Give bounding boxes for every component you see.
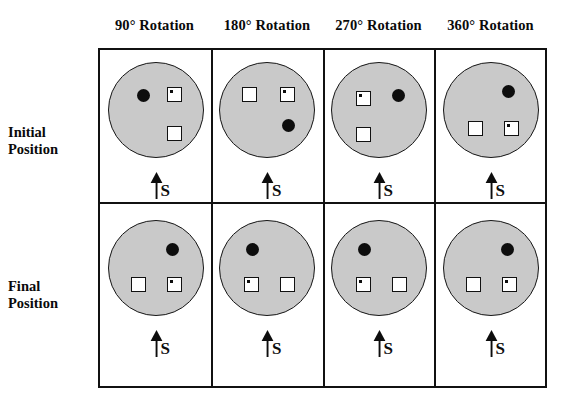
empty-square-object — [356, 127, 371, 142]
cell-initial-rot90: S — [100, 50, 211, 202]
square-with-dot-object — [167, 277, 182, 292]
black-dot-object — [502, 85, 515, 98]
black-dot-object — [137, 89, 150, 102]
black-dot-object — [358, 243, 371, 256]
marker-letter-s: S — [496, 340, 505, 357]
black-dot-object — [166, 243, 179, 256]
orientation-marker: S — [261, 330, 291, 360]
marker-letter-s: S — [272, 182, 281, 199]
cell-initial-rot360: S — [434, 50, 547, 202]
arena-disc — [443, 62, 539, 158]
arena-disc — [108, 220, 204, 316]
column-header-rot180: 180° Rotation — [211, 14, 323, 36]
orientation-marker: S — [485, 172, 515, 202]
row-label-final-line2: Position — [8, 295, 94, 312]
cell-final-rot270: S — [323, 202, 434, 388]
arena-disc — [331, 220, 427, 316]
black-dot-object — [392, 89, 405, 102]
row-label-final-line1: Final — [8, 278, 94, 295]
cell-final-rot180: S — [211, 202, 323, 388]
row-label-final-position: Final Position — [8, 278, 94, 312]
marker-letter-s: S — [384, 340, 393, 357]
rotation-figure: 90° Rotation 180° Rotation 270° Rotation… — [0, 0, 576, 401]
empty-square-object — [242, 87, 257, 102]
orientation-marker: S — [373, 330, 403, 360]
row-label-initial-line2: Position — [8, 141, 94, 158]
empty-square-object — [167, 126, 182, 141]
row-label-initial-position: Initial Position — [8, 124, 94, 158]
marker-letter-s: S — [384, 182, 393, 199]
square-with-dot-object — [244, 277, 259, 292]
black-dot-object — [246, 243, 259, 256]
column-header-rot360: 360° Rotation — [434, 14, 547, 36]
orientation-marker: S — [261, 172, 291, 202]
marker-letter-s: S — [272, 340, 281, 357]
marker-letter-s: S — [161, 182, 170, 199]
orientation-marker: S — [373, 172, 403, 202]
orientation-marker: S — [150, 330, 180, 360]
figure-grid: SSSSSSSS — [98, 48, 547, 388]
arena-disc — [443, 220, 539, 316]
empty-square-object — [131, 277, 146, 292]
cell-final-rot360: S — [434, 202, 547, 388]
square-with-dot-object — [356, 277, 371, 292]
orientation-marker: S — [150, 172, 180, 202]
empty-square-object — [466, 277, 481, 292]
square-with-dot-object — [356, 91, 371, 106]
empty-square-object — [468, 121, 483, 136]
empty-square-object — [280, 277, 295, 292]
arena-disc — [331, 62, 427, 158]
cell-initial-rot180: S — [211, 50, 323, 202]
square-with-dot-object — [504, 121, 519, 136]
square-with-dot-object — [502, 277, 517, 292]
empty-square-object — [392, 277, 407, 292]
black-dot-object — [282, 119, 295, 132]
arena-disc — [219, 62, 315, 158]
cell-final-rot90: S — [100, 202, 211, 388]
square-with-dot-object — [167, 87, 182, 102]
square-with-dot-object — [280, 87, 295, 102]
column-header-rot90: 90° Rotation — [98, 14, 211, 36]
black-dot-object — [501, 243, 514, 256]
marker-letter-s: S — [161, 340, 170, 357]
marker-letter-s: S — [496, 182, 505, 199]
arena-disc — [108, 62, 204, 158]
row-label-initial-line1: Initial — [8, 124, 94, 141]
column-header-rot270: 270° Rotation — [323, 14, 434, 36]
arena-disc — [219, 220, 315, 316]
cell-initial-rot270: S — [323, 50, 434, 202]
orientation-marker: S — [485, 330, 515, 360]
